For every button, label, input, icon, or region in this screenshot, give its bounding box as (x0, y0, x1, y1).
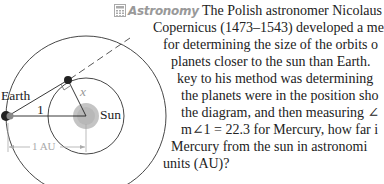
calculator-icon (114, 4, 126, 22)
problem-text: Astronomy The Polish astronomer Nicolaus… (0, 0, 384, 184)
problem-line-1: Astronomy The Polish astronomer Nicolaus (114, 3, 382, 22)
problem-line-3: for determining the size of the orbits o (163, 37, 378, 54)
problem-line-10: units (AU)? (163, 156, 230, 173)
problem-line-4: planets closer to the sun than Earth. (171, 54, 370, 71)
problem-line-5: key to his method was determining (177, 71, 373, 88)
problem-line-6: the planets were in the position sho (181, 88, 379, 105)
problem-line-2: Copernicus (1473–1543) developed a me (153, 20, 384, 37)
problem-line-9: Mercury from the sun in astronomi (171, 139, 367, 156)
topic-tag: Astronomy (128, 4, 199, 18)
problem-line-7: the diagram, and then measuring ∠ (181, 105, 379, 122)
problem-line-text: The Polish astronomer Nicolaus (202, 3, 382, 18)
problem-line-8: m∠1 = 22.3 for Mercury, how far i (181, 122, 378, 139)
